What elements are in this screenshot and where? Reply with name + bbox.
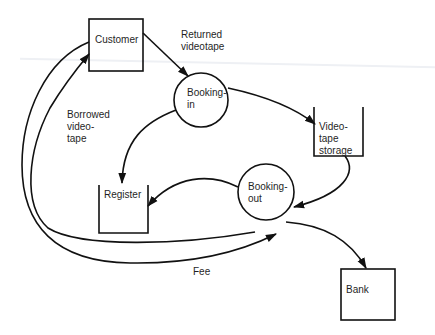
booking-in-label: Booking- in	[187, 87, 226, 111]
booking-out-label: Booking- out	[248, 181, 287, 205]
flow-bookingin-to-register[interactable]	[122, 110, 176, 183]
videotape-storage-label: Video- tape storage	[319, 121, 352, 157]
fee-label: Fee	[193, 266, 210, 278]
returned-videotape-label: Returned videotape	[181, 29, 224, 53]
flow-bookingin-to-storage[interactable]	[228, 88, 315, 124]
flow-bookingout-to-bank[interactable]	[286, 222, 366, 268]
flow-fee[interactable]	[22, 42, 276, 263]
register-label: Register	[104, 189, 141, 201]
borrowed-videotape-label: Borrowed video- tape	[67, 109, 110, 145]
flow-bookingout-to-register[interactable]	[148, 179, 238, 206]
customer-label: Customer	[95, 34, 138, 46]
bank-label: Bank	[346, 284, 369, 296]
flow-storage-to-bookingout[interactable]	[294, 156, 349, 207]
